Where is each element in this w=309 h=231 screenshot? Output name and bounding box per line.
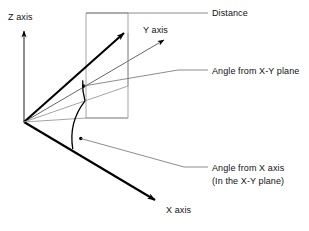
- z-axis-label: Z axis: [8, 12, 33, 23]
- x-axis: [24, 122, 155, 200]
- azimuth-angle-arc: [72, 101, 85, 149]
- angle-from-x-axis-leader-line: [81, 139, 208, 168]
- angle-from-xy-plane-leader-line: [84, 70, 208, 86]
- plane-base-line: [24, 118, 128, 122]
- vertical-plane-rectangle: [86, 13, 128, 118]
- angle-from-x-axis-note-label: (In the X-Y plane): [212, 176, 284, 187]
- angle-from-x-axis-label: Angle from X axis: [212, 163, 284, 174]
- y-axis: [24, 40, 164, 122]
- x-axis-label: X axis: [166, 205, 191, 216]
- elevation-angle-arc: [82, 80, 85, 100]
- y-axis-label: Y axis: [143, 25, 168, 36]
- distance-label: Distance: [212, 8, 248, 19]
- diagram-canvas: Z axis Y axis X axis Distance Angle from…: [0, 0, 309, 231]
- distance-vector: [24, 33, 124, 122]
- angle-from-xy-plane-label: Angle from X-Y plane: [212, 66, 299, 77]
